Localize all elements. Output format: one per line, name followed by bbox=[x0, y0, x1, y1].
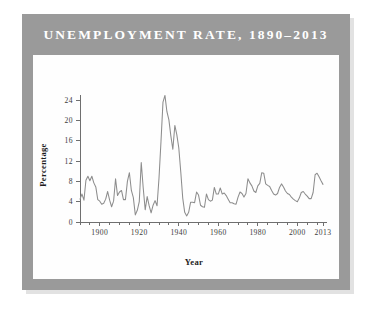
data-line-unemployment-rate bbox=[80, 95, 323, 215]
y-axis-tick-labels: 04812162024 bbox=[65, 96, 73, 227]
title-banner: UNEMPLOYMENT RATE, 1890–2013 bbox=[22, 14, 350, 55]
plot-card: 04812162024 1900192019401960198020002013… bbox=[33, 55, 339, 279]
svg-text:4: 4 bbox=[69, 197, 73, 206]
figure-frame: UNEMPLOYMENT RATE, 1890–2013 04812162024… bbox=[22, 14, 350, 290]
x-axis-tick-labels: 1900192019401960198020002013 bbox=[91, 228, 331, 237]
svg-text:1920: 1920 bbox=[131, 228, 148, 237]
axes-group bbox=[80, 95, 327, 222]
ticks-group bbox=[76, 100, 323, 226]
x-axis-title: Year bbox=[185, 257, 203, 267]
svg-text:0: 0 bbox=[69, 218, 73, 227]
svg-text:2000: 2000 bbox=[289, 228, 306, 237]
unemployment-line-chart: 04812162024 1900192019401960198020002013… bbox=[33, 55, 339, 279]
svg-text:16: 16 bbox=[65, 136, 73, 145]
svg-text:12: 12 bbox=[65, 157, 73, 166]
svg-text:8: 8 bbox=[69, 177, 73, 186]
svg-text:24: 24 bbox=[65, 96, 73, 105]
series-group bbox=[80, 95, 323, 215]
svg-text:1980: 1980 bbox=[249, 228, 266, 237]
figure-title: UNEMPLOYMENT RATE, 1890–2013 bbox=[43, 28, 328, 42]
svg-text:1900: 1900 bbox=[91, 228, 108, 237]
svg-text:20: 20 bbox=[65, 116, 73, 125]
svg-text:1960: 1960 bbox=[210, 228, 227, 237]
y-axis-title: Percentage bbox=[38, 143, 48, 186]
svg-text:1940: 1940 bbox=[170, 228, 187, 237]
unemployment-rate-figure: UNEMPLOYMENT RATE, 1890–2013 04812162024… bbox=[0, 0, 371, 309]
svg-text:2013: 2013 bbox=[315, 228, 332, 237]
